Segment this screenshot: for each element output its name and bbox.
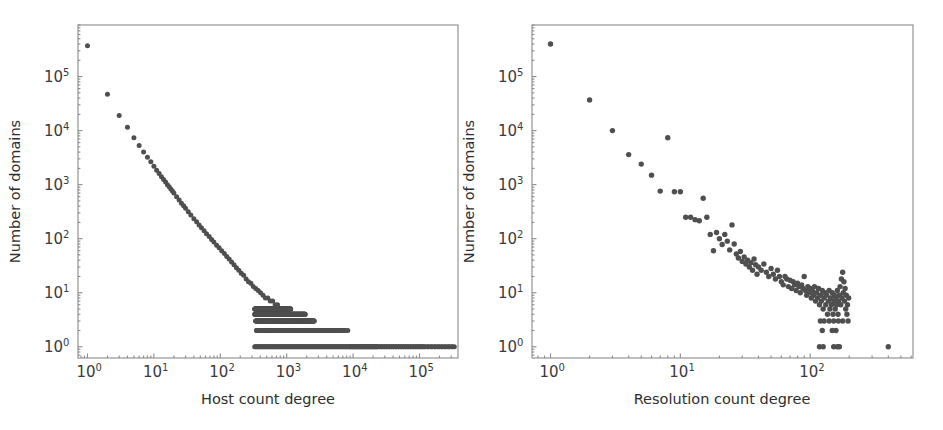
data-point [820,328,825,333]
data-point [639,161,644,166]
data-point-group [85,43,457,349]
data-point [683,214,688,219]
data-point [148,159,153,164]
data-point [85,43,90,48]
data-point [754,272,759,277]
data-point [708,232,713,237]
data-point [711,248,716,253]
data-point-group [548,41,891,349]
data-point [649,172,654,177]
data-point [141,150,146,155]
minor-ticks [532,25,911,358]
data-point [842,286,847,291]
data-point [700,196,705,201]
data-point [145,155,150,160]
data-point [841,279,846,284]
y-axis-title: Number of domains [7,120,23,263]
data-point [768,266,773,271]
data-point [801,274,806,279]
axes-frame [532,25,913,358]
data-point [714,230,719,235]
data-point [727,247,732,252]
panel-host-count-degree: 100101102103104105100101102103104105Host… [0,0,470,430]
data-point [846,295,851,300]
y-tick-label: 104 [498,121,523,140]
y-tick-label: 101 [44,283,69,302]
data-point [826,318,831,323]
data-point [678,189,683,194]
data-point [131,135,136,140]
x-tick-label: 102 [799,362,824,381]
x-tick-label: 104 [342,362,367,381]
data-point [450,344,455,349]
data-point [626,152,631,157]
x-tick-label: 101 [143,362,168,381]
data-point [844,312,849,317]
data-point [759,268,764,273]
x-tick-label: 102 [209,362,234,381]
data-point [125,125,130,130]
data-point [697,218,702,223]
y-tick-label: 104 [44,121,69,140]
y-tick-label: 102 [498,229,523,248]
data-point [275,302,280,307]
figure-container: 100101102103104105100101102103104105Host… [0,0,943,430]
scatter-plot-host-count: 100101102103104105100101102103104105Host… [0,0,470,430]
data-point [672,189,677,194]
data-point [704,214,709,219]
data-point [658,188,663,193]
data-point [835,312,840,317]
x-tick-label: 101 [669,362,694,381]
data-point [845,318,850,323]
data-point [729,222,734,227]
data-point [750,268,755,273]
data-point [840,318,845,323]
data-point [342,328,347,333]
data-point [840,269,845,274]
data-point [725,238,730,243]
data-point [117,113,122,118]
data-point [821,318,826,323]
y-axis-ticks: 100101102103104105 [44,67,83,356]
data-point [137,143,142,148]
data-point [731,241,736,246]
x-tick-label: 100 [540,362,565,381]
data-point [151,164,156,169]
data-point [833,328,838,333]
data-point [548,41,553,46]
data-point [738,249,743,254]
data-point [665,135,670,140]
y-tick-label: 101 [498,283,523,302]
data-point [610,128,615,133]
y-tick-label: 103 [44,175,69,194]
y-tick-label: 100 [44,337,69,356]
data-point [771,272,776,277]
x-tick-label: 103 [276,362,301,381]
data-point [587,97,592,102]
data-point [831,318,836,323]
data-point [837,344,842,349]
data-point [845,302,850,307]
data-point [820,344,825,349]
data-point [830,312,835,317]
data-point [775,268,780,273]
data-point [777,274,782,279]
data-point [312,318,317,323]
data-point [780,282,785,287]
x-axis-title: Host count degree [201,391,335,407]
data-point [303,312,308,317]
x-axis-title: Resolution count degree [634,391,811,407]
x-tick-label: 100 [76,362,101,381]
y-tick-label: 105 [498,67,523,86]
data-point [751,256,756,261]
y-axis-title: Number of domains [461,120,477,263]
y-tick-label: 103 [498,175,523,194]
panel-resolution-count-degree: 100101102100101102103104105Resolution co… [470,0,943,430]
data-point [886,344,891,349]
data-point [837,284,842,289]
data-point [288,307,293,312]
data-point [761,261,766,266]
data-point [719,242,724,247]
data-point [722,232,727,237]
data-point [825,312,830,317]
